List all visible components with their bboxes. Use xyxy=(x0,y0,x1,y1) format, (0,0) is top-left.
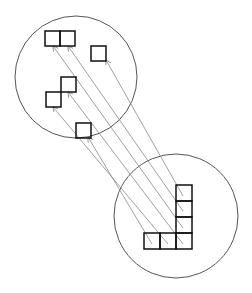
circles-group xyxy=(15,16,238,278)
squares-group xyxy=(45,31,192,249)
mapping-arrow xyxy=(106,60,183,196)
arrows-group xyxy=(53,46,183,244)
top-square xyxy=(60,31,75,46)
bottom-square xyxy=(176,233,192,249)
top-square xyxy=(45,31,60,46)
bottom-square xyxy=(176,201,192,217)
bottom-square xyxy=(176,217,192,233)
top-square xyxy=(76,123,91,138)
mapping-arrow xyxy=(68,92,183,244)
bottom-square xyxy=(160,233,176,249)
mapping-arrow xyxy=(68,46,183,211)
polyomino-mapping-diagram xyxy=(0,0,252,293)
top-square xyxy=(46,92,61,107)
top-square xyxy=(61,77,76,92)
top-square xyxy=(91,46,106,61)
mapping-arrow xyxy=(53,46,183,228)
